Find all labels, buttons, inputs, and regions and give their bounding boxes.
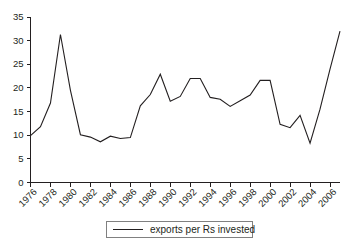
y-axis: 05101520253035: [13, 11, 31, 188]
y-tick-group: 05101520253035: [13, 11, 31, 188]
y-tick-label: 25: [13, 58, 24, 69]
x-tick-label: 2006: [316, 186, 339, 209]
x-tick-label: 1996: [216, 186, 239, 209]
chart-legend: exports per Rs invested: [106, 221, 253, 238]
y-tick-label: 15: [13, 106, 24, 117]
y-tick-label: 10: [13, 129, 24, 140]
x-tick-label: 1994: [196, 186, 219, 209]
x-tick-label: 1998: [236, 186, 259, 209]
series-group: [31, 31, 341, 143]
chart-container: 05101520253035 1976197819801982198419861…: [0, 0, 347, 243]
y-tick-label: 30: [13, 35, 24, 46]
x-tick-label: 1982: [76, 186, 99, 209]
line-chart: 05101520253035 1976197819801982198419861…: [0, 0, 347, 243]
series-line-exports-per-rs-invested: [31, 31, 341, 143]
x-tick-label: 1990: [156, 186, 179, 209]
x-tick-label: 1986: [116, 186, 139, 209]
x-tick-label: 1992: [176, 186, 199, 209]
x-tick-label: 1984: [96, 186, 119, 209]
x-tick-label: 1988: [136, 186, 159, 209]
x-tick-label: 1980: [56, 186, 79, 209]
x-axis: 1976197819801982198419861988199019921994…: [16, 183, 340, 209]
x-tick-label: 2004: [296, 186, 319, 209]
legend-item-label: exports per Rs invested: [150, 225, 255, 235]
y-tick-label: 5: [18, 153, 23, 164]
x-tick-group: 1976197819801982198419861988199019921994…: [16, 183, 338, 209]
y-tick-label: 35: [13, 11, 24, 22]
x-tick-label: 1976: [16, 186, 39, 209]
y-tick-label: 0: [18, 177, 23, 188]
y-tick-label: 20: [13, 82, 24, 93]
x-tick-label: 1978: [36, 186, 59, 209]
x-tick-label: 2000: [256, 186, 279, 209]
x-tick-label: 2002: [276, 186, 299, 209]
legend-line-swatch: [113, 229, 143, 230]
